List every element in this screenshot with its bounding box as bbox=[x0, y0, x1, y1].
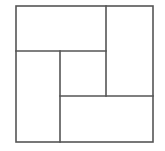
outer-square bbox=[16, 6, 153, 142]
pinwheel-square-diagram bbox=[0, 0, 165, 151]
